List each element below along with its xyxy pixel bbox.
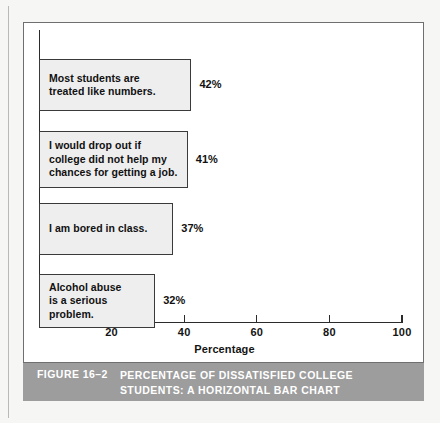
x-tick-40	[184, 315, 185, 323]
bar-2: I would drop out if college did not help…	[39, 131, 188, 188]
bar-value-label-1: 42%	[199, 78, 221, 90]
bar-category-label-4: Alcohol abuse is a serious problem.	[40, 281, 127, 321]
figure-root: 20406080100 Most students are treated li…	[0, 0, 440, 423]
bar-category-label-3: I am bored in class.	[40, 222, 153, 235]
x-tick-label-80: 80	[323, 326, 336, 338]
figure-caption-inner: FIGURE 16–2 PERCENTAGE OF DISSATISFIED C…	[23, 367, 353, 397]
x-tick-label-60: 60	[250, 326, 263, 338]
x-tick-60	[256, 315, 257, 323]
bar-1: Most students are treated like numbers.	[39, 59, 191, 111]
x-axis-title: Percentage	[24, 343, 425, 355]
bar-category-label-1: Most students are treated like numbers.	[40, 72, 162, 99]
x-tick-label-100: 100	[393, 326, 412, 338]
figure-panel: 20406080100 Most students are treated li…	[23, 22, 424, 363]
bar-value-label-2: 41%	[196, 153, 218, 165]
bar-4: Alcohol abuse is a serious problem.	[39, 274, 155, 328]
bar-value-label-3: 37%	[181, 222, 203, 234]
bar-value-label-4: 32%	[163, 294, 185, 306]
bar-chart-plot-area: 20406080100 Most students are treated li…	[24, 23, 425, 364]
x-tick-label-40: 40	[178, 326, 191, 338]
x-tick-80	[329, 315, 330, 323]
figure-caption-text: PERCENTAGE OF DISSATISFIED COLLEGE STUDE…	[108, 367, 353, 397]
figure-caption-band: FIGURE 16–2 PERCENTAGE OF DISSATISFIED C…	[23, 363, 424, 401]
bar-category-label-2: I would drop out if college did not help…	[40, 139, 183, 179]
x-tick-100	[401, 315, 402, 323]
figure-number-label: FIGURE 16–2	[37, 367, 108, 380]
page-edge-rule	[8, 6, 9, 418]
bar-3: I am bored in class.	[39, 203, 173, 255]
